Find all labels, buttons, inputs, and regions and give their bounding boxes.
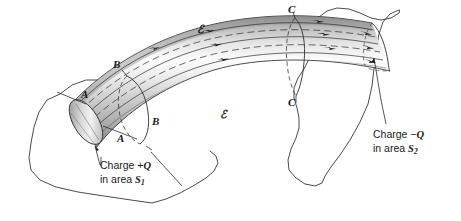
- right-charge-prefix: Charge −: [373, 128, 417, 140]
- right-area-line2: in area S2: [373, 142, 424, 157]
- left-charge-line1: Charge +Q: [100, 159, 151, 171]
- label-field-symbol-upper: ℰ: [197, 23, 204, 36]
- left-area-subscript: 1: [141, 178, 145, 187]
- left-area-line2: in area S1: [100, 173, 151, 188]
- right-charge-symbol: Q: [417, 129, 425, 140]
- label-section-a-upper: A: [81, 88, 88, 101]
- label-section-b-lower: B: [152, 115, 159, 128]
- figure-canvas: [0, 0, 461, 221]
- label-section-a-lower: A: [117, 132, 124, 145]
- left-charge-prefix: Charge +: [100, 159, 144, 171]
- right-area-subscript: 2: [414, 147, 418, 156]
- label-section-c-upper: C: [288, 3, 295, 16]
- right-area-prefix: in area: [373, 142, 408, 154]
- label-section-b-upper: B: [113, 58, 120, 71]
- label-section-c-lower: C: [288, 96, 295, 109]
- label-field-symbol-lower: ℰ: [220, 108, 227, 121]
- left-charge-symbol: Q: [144, 160, 152, 171]
- flux-tube-figure: A A B B C C ℰ ℰ Charge +Q in area S1 Cha…: [0, 0, 461, 221]
- left-area-prefix: in area: [100, 173, 135, 185]
- right-charge-annotation: Charge −Q in area S2: [373, 128, 424, 157]
- right-charge-line1: Charge −Q: [373, 128, 424, 140]
- left-charge-annotation: Charge +Q in area S1: [100, 159, 151, 188]
